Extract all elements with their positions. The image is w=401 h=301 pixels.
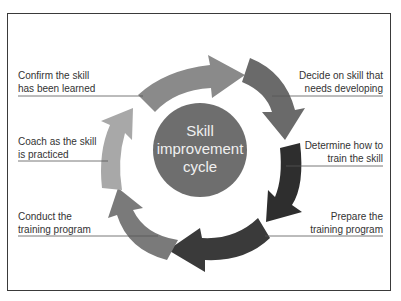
arrow-coach	[101, 108, 133, 190]
center-title-line3: cycle	[150, 158, 250, 176]
step-label-determine-line1: Determine how to	[305, 140, 383, 153]
step-label-decide-line2: needs developing	[299, 83, 383, 96]
step-label-determine: Determine how to train the skill	[305, 140, 383, 165]
step-label-coach: Coach as the skill is practiced	[18, 136, 96, 161]
arrow-prepare	[168, 218, 270, 272]
step-label-prepare-line1: Prepare the	[310, 211, 383, 224]
step-label-decide: Decide on skill that needs developing	[299, 70, 383, 95]
arrow-determine	[266, 143, 302, 222]
step-label-conduct-line1: Conduct the	[18, 211, 91, 224]
step-label-conduct: Conduct the training program	[18, 211, 91, 236]
step-label-confirm-line2: has been learned	[18, 83, 95, 96]
center-title-line2: improvement	[150, 140, 250, 158]
step-label-coach-line2: is practiced	[18, 149, 96, 162]
center-title-line1: Skill	[150, 122, 250, 140]
step-label-determine-line2: train the skill	[305, 153, 383, 166]
step-label-confirm-line1: Confirm the skill	[18, 70, 95, 83]
step-label-confirm: Confirm the skill has been learned	[18, 70, 95, 95]
step-label-coach-line1: Coach as the skill	[18, 136, 96, 149]
arrow-confirm	[138, 55, 245, 112]
step-label-prepare: Prepare the training program	[310, 211, 383, 236]
step-label-prepare-line2: training program	[310, 224, 383, 237]
step-label-decide-line1: Decide on skill that	[299, 70, 383, 83]
step-label-conduct-line2: training program	[18, 224, 91, 237]
center-title: Skill improvement cycle	[150, 122, 250, 176]
arrow-conduct	[108, 188, 178, 260]
arrow-decide	[242, 58, 305, 140]
